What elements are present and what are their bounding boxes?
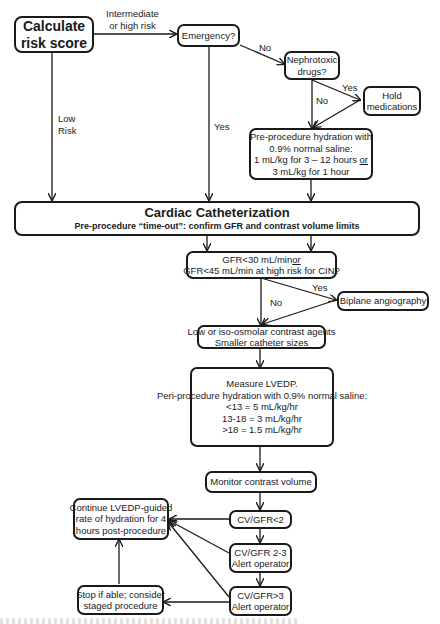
contrast-agents-node: Low or iso-osmolar contrast agents Small… <box>197 325 326 349</box>
node-line: medications <box>367 101 418 113</box>
calculate-risk-score-node: Calculate risk score <box>14 16 94 53</box>
node-line: Alert operator <box>232 558 290 570</box>
hold-medications-node: Hold medications <box>363 86 421 116</box>
node-line: hours post-procedure <box>76 525 166 537</box>
node-line: CV/GFR 2-3 <box>234 547 286 559</box>
node-line: GFR<30 mL/minor <box>222 254 300 266</box>
node-line: Emergency? <box>182 30 235 42</box>
edge-label-low-risk: Low Risk <box>58 113 76 136</box>
node-line: staged procedure <box>84 600 158 612</box>
pre-procedure-hydration-node: Pre-procedure hydration with 0.9% normal… <box>249 128 373 180</box>
node-line: Alert operator <box>232 601 290 613</box>
edge-label-nephro-yes: Yes <box>342 82 358 94</box>
node-line: Biplane angiography <box>340 295 427 307</box>
continue-hydration-node: Continue LVEDP-guided rate of hydration … <box>73 498 169 540</box>
node-line: 1 mL/kg for 3 – 12 hours or <box>254 154 368 166</box>
node-line: Hold <box>382 90 402 102</box>
stop-staged-procedure-node: Stop if able; consider staged procedure <box>77 585 164 615</box>
node-line: Pre-procedure hydration with <box>250 131 372 143</box>
node-line: 3 mL/kg for 1 hour <box>272 166 349 178</box>
node-line: Measure LVEDP. <box>226 378 297 390</box>
node-line: >18 = 1.5 mL/kg/hr <box>222 424 302 436</box>
node-line: 0.9% normal saline: <box>269 143 352 155</box>
edge-label-emergency-yes: Yes <box>214 121 230 133</box>
cropped-caption <box>0 618 300 624</box>
edge-label-emergency-no: No <box>259 42 271 54</box>
edge-label-gfr-yes: Yes <box>312 282 328 294</box>
monitor-contrast-volume-node: Monitor contrast volume <box>205 471 317 493</box>
cv-gfr-lt2-node: CV/GFR<2 <box>229 510 292 529</box>
emergency-node: Emergency? <box>177 24 240 47</box>
node-line: CV/GFR>3 <box>237 590 284 602</box>
node-line: Nephrotoxic <box>287 54 338 66</box>
cv-gfr-gt3-node: CV/GFR>3 Alert operator <box>229 586 292 616</box>
node-line: Continue LVEDP-guided <box>70 502 173 514</box>
edge-label-nephro-no: No <box>316 95 328 107</box>
biplane-angiography-node: Biplane angiography <box>337 291 429 311</box>
cv-gfr-2-3-node: CV/GFR 2-3 Alert operator <box>229 543 292 573</box>
cath-subtitle: Pre-procedure “time-out”: confirm GFR an… <box>74 221 359 232</box>
node-line: GFR<45 mL/min at high risk for CIN? <box>183 265 340 277</box>
node-line: 13-18 = 3 mL/kg/hr <box>222 413 302 425</box>
node-line: CV/GFR<2 <box>237 514 284 526</box>
cardiac-catheterization-node: Cardiac Catheterization Pre-procedure “t… <box>14 201 420 236</box>
node-line: <13 = 5 mL/kg/hr <box>226 401 298 413</box>
node-line: Peri-procedure hydration with 0.9% norma… <box>157 390 367 402</box>
node-line: risk score <box>21 35 87 52</box>
node-line: Smaller catheter sizes <box>215 337 308 349</box>
node-line: Low or iso-osmolar contrast agents <box>188 326 336 338</box>
gfr-check-node: GFR<30 mL/minor GFR<45 mL/min at high ri… <box>186 251 337 279</box>
edge-label-intermediate: Intermediate or high risk <box>106 8 159 31</box>
cath-title: Cardiac Catheterization <box>144 205 289 221</box>
node-line: Monitor contrast volume <box>210 476 311 488</box>
nephrotoxic-drugs-node: Nephrotoxic drugs? <box>284 51 340 80</box>
node-line: drugs? <box>297 66 326 78</box>
node-line: Stop if able; consider <box>76 589 165 601</box>
node-line: rate of hydration for 4 <box>76 513 166 525</box>
measure-lvedp-node: Measure LVEDP. Peri-procedure hydration … <box>190 367 334 447</box>
edge-label-gfr-no: No <box>270 297 282 309</box>
node-line: Calculate <box>23 18 85 35</box>
